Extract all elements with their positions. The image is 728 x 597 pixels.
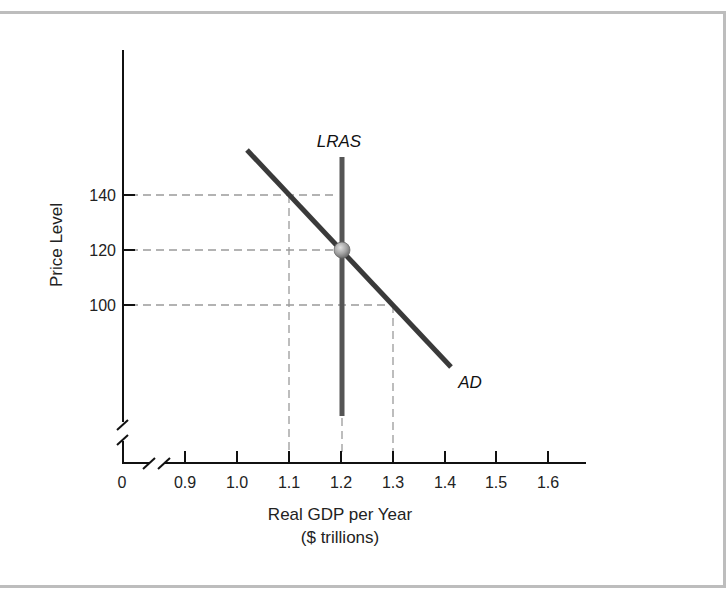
ad-label: AD — [457, 373, 482, 392]
equilibrium-point — [334, 242, 350, 258]
x-tick-label-1.5: 1.5 — [485, 474, 507, 491]
x-tick-label-1.3: 1.3 — [382, 474, 404, 491]
ad-curve — [247, 150, 451, 367]
x-origin-label: 0 — [118, 474, 127, 491]
y-tick-label-100: 100 — [89, 297, 116, 314]
reference-lines — [130, 195, 393, 455]
x-axis-title: Real GDP per Year — [268, 505, 413, 524]
x-tick-label-1.2: 1.2 — [330, 474, 352, 491]
x-tick-label-1.1: 1.1 — [278, 474, 300, 491]
y-tick-label-140: 140 — [89, 187, 116, 204]
chart: 140 120 100 Price Level 0 0.9 1.0 1.1 1.… — [0, 0, 728, 597]
y-axis-title: Price Level — [47, 203, 66, 287]
x-axis-subtitle: ($ trillions) — [301, 528, 379, 547]
y-tick-label-120: 120 — [89, 242, 116, 259]
x-tick-label-1.6: 1.6 — [537, 474, 559, 491]
x-tick-label-1.4: 1.4 — [434, 474, 456, 491]
x-tick-label-1.0: 1.0 — [226, 474, 248, 491]
x-tick-label-0.9: 0.9 — [174, 474, 196, 491]
lras-label: LRAS — [317, 132, 362, 151]
